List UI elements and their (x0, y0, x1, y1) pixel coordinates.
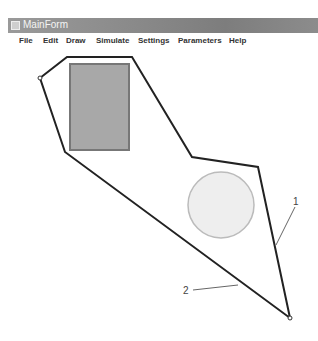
annotation-leader-1 (276, 207, 295, 245)
circle-shape[interactable] (188, 172, 254, 238)
drawing-canvas[interactable]: 1 2 (0, 0, 318, 341)
annotation-label-1: 1 (293, 196, 299, 207)
annotation-leader-2 (193, 285, 238, 290)
rectangle-shape[interactable] (70, 64, 129, 150)
vertex-handle[interactable] (288, 316, 292, 320)
vertex-handle[interactable] (38, 76, 42, 80)
annotation-label-2: 2 (183, 285, 189, 296)
